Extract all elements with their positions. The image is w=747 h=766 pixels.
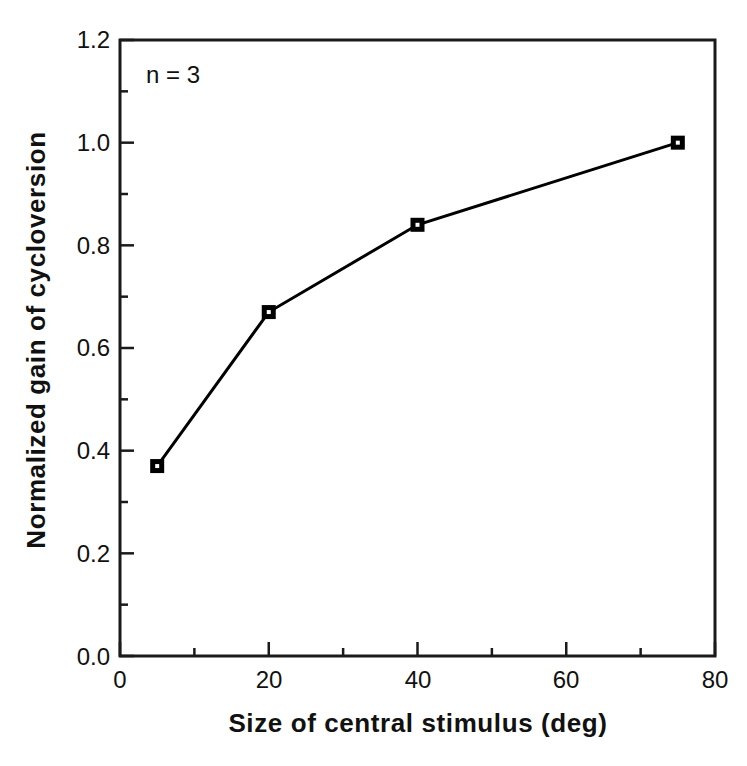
plot-frame	[120, 40, 715, 656]
data-line	[157, 143, 678, 466]
data-point-marker-center	[676, 141, 680, 145]
data-point-marker-center	[416, 223, 420, 227]
data-point-marker-center	[155, 464, 159, 468]
chart-figure: Normalized gain of cycloversion 1.2 1.0 …	[0, 0, 747, 766]
plot-canvas	[0, 0, 747, 766]
data-series-layer	[151, 137, 684, 472]
axis-ticks	[120, 40, 715, 656]
data-point-marker-center	[267, 310, 271, 314]
